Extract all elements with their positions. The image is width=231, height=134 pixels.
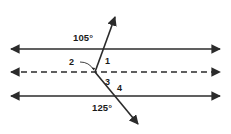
angle-2-leader-arrowhead <box>92 68 96 71</box>
angle-label-4: 4 <box>117 84 122 93</box>
angle-label-3: 3 <box>105 78 110 87</box>
angle-diagram-figure: 105° 125° 1 2 3 4 <box>0 0 231 134</box>
diagram-canvas <box>0 0 231 134</box>
angle-2-leader-arc <box>80 62 94 70</box>
angle-label-1: 1 <box>105 57 110 66</box>
angle-label-2: 2 <box>69 58 74 67</box>
transversal-lower-ray <box>95 72 138 124</box>
angle-measure-105: 105° <box>73 33 93 43</box>
angle-measure-125: 125° <box>92 103 112 113</box>
